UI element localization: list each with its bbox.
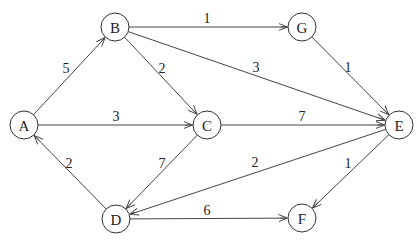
node-e: E (385, 111, 413, 139)
edge-weight-c-e: 7 (299, 109, 306, 124)
edge-e-f (313, 135, 389, 208)
edge-g-e (312, 37, 389, 115)
edge-c-d (126, 135, 197, 209)
node-a: A (10, 111, 38, 139)
node-label: D (111, 212, 122, 228)
edge-weight-b-e: 3 (253, 60, 260, 75)
node-c: C (193, 111, 221, 139)
node-label: B (110, 20, 120, 36)
nodes-layer: ABCDEFG (10, 13, 413, 233)
edge-b-c (125, 37, 198, 114)
node-label: G (297, 20, 308, 36)
directed-weighted-graph: 531231772216 ABCDEFG (0, 0, 417, 244)
edge-weight-g-e: 1 (345, 60, 352, 75)
node-b: B (101, 13, 129, 41)
edge-weight-b-c: 2 (159, 61, 166, 76)
edge-weight-e-f: 1 (345, 156, 352, 171)
node-label: E (394, 118, 403, 134)
node-d: D (102, 205, 130, 233)
edge-d-a (34, 135, 106, 209)
node-f: F (288, 204, 316, 232)
edge-weight-a-c: 3 (113, 109, 120, 124)
edge-e-d (130, 129, 386, 214)
node-label: C (202, 118, 212, 134)
node-label: A (19, 118, 30, 134)
node-g: G (288, 13, 316, 41)
edge-weight-d-f: 6 (204, 203, 211, 218)
edge-weight-c-d: 7 (159, 156, 166, 171)
edge-weight-d-a: 2 (66, 156, 73, 171)
edge-d-f (130, 218, 288, 219)
edge-weight-e-d: 2 (252, 155, 259, 170)
edge-weight-b-g: 1 (204, 11, 211, 26)
edge-b-e (128, 32, 385, 121)
edge-a-b (34, 38, 106, 115)
edge-weight-a-b: 5 (63, 61, 70, 76)
node-label: F (298, 211, 306, 227)
